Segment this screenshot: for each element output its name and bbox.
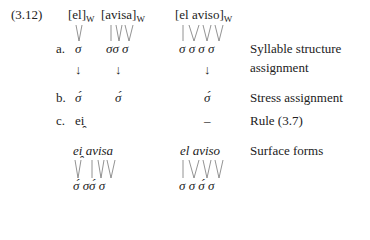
arrow-down-icon: ↓ bbox=[75, 63, 82, 77]
row-c-label: c. bbox=[56, 114, 65, 128]
row-b-label: b. bbox=[56, 91, 66, 105]
arrow-down-icon: ↓ bbox=[115, 63, 122, 77]
surface-sigmas-2: σ σ σ́ σ bbox=[179, 179, 214, 193]
row-a-description-2: assignment bbox=[250, 61, 309, 75]
arrow-down-icon: ↓ bbox=[204, 63, 211, 77]
row-c-col1: ei̯ bbox=[75, 114, 84, 128]
row-b-col3: σ́ bbox=[204, 91, 210, 105]
row-b-description: Stress assignment bbox=[250, 91, 343, 105]
row-a-label: a. bbox=[56, 42, 65, 56]
row-a-col3: σ σ σ σ bbox=[179, 42, 214, 56]
row-b-col2: σ́ bbox=[115, 91, 121, 105]
row-a-col1: σ bbox=[75, 42, 81, 56]
row-a-col2: σσ σ bbox=[106, 42, 128, 56]
surface-form-1: ei̯ avisa bbox=[73, 144, 113, 158]
row-b-col1: σ́ bbox=[75, 91, 81, 105]
row-a-description-1: Syllable structure bbox=[250, 42, 341, 56]
surface-form-2: el aviso bbox=[180, 144, 220, 158]
surface-sigmas-1: σ́ σσ́ σ bbox=[73, 179, 105, 193]
row-c-col3: – bbox=[204, 114, 211, 128]
row-c-description: Rule (3.7) bbox=[250, 114, 303, 128]
surface-description: Surface forms bbox=[250, 144, 323, 158]
